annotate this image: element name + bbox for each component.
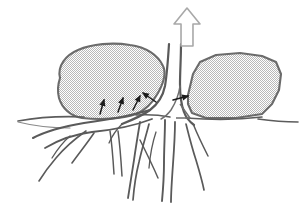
right-boulder: [188, 53, 281, 118]
root-wedging-illustration: [0, 0, 305, 208]
figure-container: Tree root wedging rock fragments apart: [0, 0, 305, 208]
